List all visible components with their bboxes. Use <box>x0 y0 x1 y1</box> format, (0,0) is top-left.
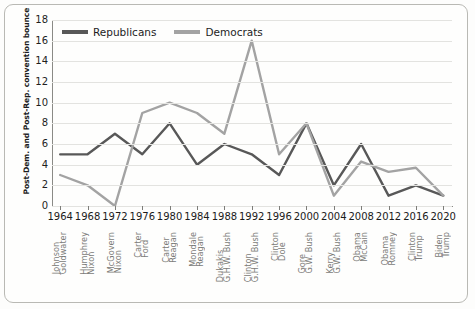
x-tick-1996 <box>279 206 280 210</box>
x-candidate-label-2012: ObamaRomney <box>382 232 396 265</box>
legend-label-republicans: Republicans <box>93 26 156 38</box>
candidate-rep-1988: G.H.W. Bush <box>224 232 231 282</box>
x-tick-2004 <box>334 206 335 210</box>
x-candidate-label-2016: ClintonTrump <box>409 232 423 261</box>
x-candidate-label-1964: JohnsonGoldwater <box>53 232 67 274</box>
legend-item-republicans[interactable]: Republicans <box>62 26 156 38</box>
x-year-label-2020: 2020 <box>423 211 463 222</box>
candidate-rep-2012: Romney <box>389 232 396 265</box>
gridline-8 <box>52 123 452 124</box>
y-tick-label-10: 10 <box>26 98 48 108</box>
x-candidate-label-2008: ObamaMcCain <box>354 232 368 262</box>
legend-label-democrats: Democrats <box>205 26 262 38</box>
x-tick-1984 <box>197 206 198 210</box>
chart-legend: Republicans Democrats <box>62 26 263 38</box>
x-candidate-label-1976: CarterFord <box>135 232 149 258</box>
x-tick-1992 <box>252 206 253 210</box>
x-tick-2016 <box>416 206 417 210</box>
gridline-2 <box>52 185 452 186</box>
chart-container: Post-Dem. and Post-Rep. convention bounc… <box>0 0 475 309</box>
candidate-rep-1980: Reagan <box>170 232 177 263</box>
x-candidate-label-2000: GoreG.W. Bush <box>299 232 313 274</box>
x-candidate-label-2004: KerryG.W. Bush <box>327 232 341 274</box>
y-tick-label-18: 18 <box>26 15 48 25</box>
x-candidate-label-2020: BidenTrump <box>436 232 450 258</box>
x-tick-1980 <box>170 206 171 210</box>
legend-swatch-republicans <box>62 30 88 33</box>
candidate-rep-2008: McCain <box>361 232 368 262</box>
x-tick-2012 <box>389 206 390 210</box>
plot-area <box>52 20 452 206</box>
x-candidate-label-1984: MondaleReagan <box>190 232 204 267</box>
x-candidate-label-1972: McGovernNixon <box>108 232 122 273</box>
x-tick-1964 <box>60 206 61 210</box>
x-tick-1976 <box>142 206 143 210</box>
candidate-rep-2020: Trump <box>443 232 450 258</box>
y-axis-tick-labels: 024681012141618 <box>24 0 48 309</box>
y-tick-label-4: 4 <box>26 160 48 170</box>
x-tick-1972 <box>115 206 116 210</box>
y-tick-label-6: 6 <box>26 139 48 149</box>
x-tick-2008 <box>361 206 362 210</box>
x-tick-2000 <box>306 206 307 210</box>
gridline-6 <box>52 144 452 145</box>
y-tick-label-16: 16 <box>26 36 48 46</box>
gridline-12 <box>52 82 452 83</box>
series-lines <box>52 20 452 206</box>
gridline-14 <box>52 61 452 62</box>
gridline-18 <box>52 20 452 21</box>
y-tick-label-14: 14 <box>26 56 48 66</box>
candidate-rep-1964: Goldwater <box>60 232 67 274</box>
x-candidate-label-1988: DukakisG.H.W. Bush <box>217 232 231 282</box>
y-tick-label-12: 12 <box>26 77 48 87</box>
x-tick-1968 <box>88 206 89 210</box>
x-candidate-label-1996: ClintonDole <box>272 232 286 261</box>
gridline-16 <box>52 41 452 42</box>
x-tick-1988 <box>224 206 225 210</box>
y-tick-label-0: 0 <box>26 201 48 211</box>
x-candidate-label-1992: ClintonG.H.W. Bush <box>245 232 259 282</box>
x-candidate-label-1968: HumphreyNixon <box>81 232 95 275</box>
candidate-rep-1996: Dole <box>279 232 286 261</box>
y-tick-label-2: 2 <box>26 180 48 190</box>
candidate-rep-1984: Reagan <box>197 232 204 267</box>
x-tick-2020 <box>443 206 444 210</box>
gridline-4 <box>52 165 452 166</box>
legend-swatch-democrats <box>174 30 200 33</box>
y-tick-label-8: 8 <box>26 118 48 128</box>
candidate-rep-2004: G.W. Bush <box>334 232 341 274</box>
candidate-rep-1976: Ford <box>142 232 149 258</box>
x-candidate-label-1980: CarterReagan <box>163 232 177 263</box>
candidate-rep-1992: G.H.W. Bush <box>252 232 259 282</box>
candidate-rep-2016: Trump <box>416 232 423 261</box>
gridline-10 <box>52 103 452 104</box>
legend-item-democrats[interactable]: Democrats <box>174 26 262 38</box>
candidate-rep-2000: G.W. Bush <box>306 232 313 274</box>
